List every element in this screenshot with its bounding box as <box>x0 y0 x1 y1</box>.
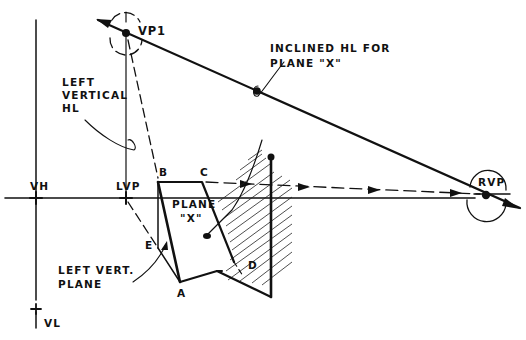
label-point-d: D <box>248 259 258 271</box>
label-inclined-hl-1: INCLINED HL FOR <box>270 42 391 54</box>
diagram-svg: VP1 INCLINED HL FOR PLANE "X" LEFT VERTI… <box>0 0 526 340</box>
label-vh: VH <box>30 180 49 192</box>
label-rvp: RVP <box>478 176 506 188</box>
top-right-point <box>268 154 275 161</box>
label-plane-x-1: PLANE <box>172 198 216 210</box>
label-left-vert-plane-2: PLANE <box>58 278 102 290</box>
lvp-to-e-dashed <box>128 202 158 248</box>
label-left-vertical-hl-1: LEFT <box>62 76 95 88</box>
label-point-b: B <box>159 166 168 178</box>
label-point-c: C <box>200 166 209 178</box>
plane-x-c-to-d-dashed <box>234 262 243 276</box>
plane-x-leader <box>206 140 262 236</box>
dash-arrow-2 <box>298 183 310 191</box>
label-left-vert-plane-1: LEFT VERT. <box>58 264 134 276</box>
label-plane-x-2: "X" <box>180 212 203 224</box>
plane-x-b-to-a <box>158 182 180 282</box>
left-vert-plane-arrow <box>161 241 168 250</box>
plane-x-bottom-edge <box>180 271 271 297</box>
label-inclined-hl-2: PLANE "X" <box>270 57 342 69</box>
rvp-point <box>482 191 490 199</box>
vp1-to-b-dashed <box>128 40 158 178</box>
label-vl: VL <box>44 317 61 329</box>
perspective-diagram: VP1 INCLINED HL FOR PLANE "X" LEFT VERTI… <box>0 0 526 340</box>
left-vertical-hl-leader <box>85 120 135 150</box>
label-lvp: LVP <box>116 180 141 192</box>
plane-x-dot <box>203 233 211 239</box>
label-left-vertical-hl-3: HL <box>62 102 80 114</box>
inclined-hl-arrow-right <box>502 198 520 209</box>
label-point-a: A <box>177 287 186 299</box>
label-point-e: E <box>145 239 153 251</box>
dash-arrow-3 <box>368 186 380 194</box>
label-left-vertical-hl-2: VERTICAL <box>62 89 128 101</box>
rvp-circle-bottom <box>467 200 506 222</box>
label-vp1: VP1 <box>138 24 166 38</box>
inclined-hl-arrow-left <box>96 19 112 28</box>
dash-arrow-4 <box>450 189 462 197</box>
